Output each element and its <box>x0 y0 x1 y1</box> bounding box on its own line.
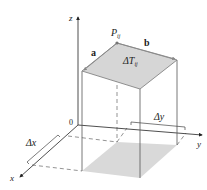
delta-x-label: Δx <box>25 137 37 148</box>
p-ij-label: Pij <box>110 27 121 39</box>
y-axis-label: y <box>196 139 201 149</box>
z-axis-label: z <box>68 13 73 23</box>
vector-b-label: b <box>144 37 150 48</box>
origin-label: 0 <box>69 118 73 127</box>
diagram-canvas: z y x 0 Pij a b ΔTij Δx Δy <box>0 0 207 190</box>
delta-y-label: Δy <box>153 111 165 122</box>
base-rectangle <box>82 142 177 178</box>
tangent-parallelogram <box>82 43 177 89</box>
vector-a-label: a <box>91 47 96 58</box>
x-axis-label: x <box>9 173 14 183</box>
point-p-ij <box>115 41 118 44</box>
